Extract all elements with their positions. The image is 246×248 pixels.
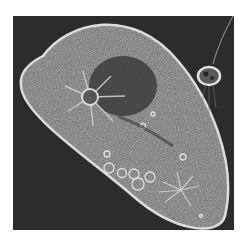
- micrograph-frame: [13, 16, 234, 230]
- paramecium-illustration: [13, 16, 234, 230]
